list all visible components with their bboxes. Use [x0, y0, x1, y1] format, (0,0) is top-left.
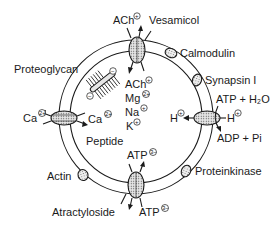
- synapsin-protein: [191, 73, 204, 87]
- proteinkinase-label: Proteinkinase: [195, 165, 262, 177]
- h-in-arrowhead-icon: [183, 115, 189, 121]
- svg-text:−: −: [111, 68, 115, 74]
- adp-pi-label: ADP + Pi: [217, 132, 262, 144]
- vesicle-diagram: ACh + Vesamicol Calmodulin Synapsin I AT…: [0, 0, 278, 227]
- vesamicol-block-line: [145, 31, 151, 40]
- k-label: K: [126, 120, 134, 132]
- ach-transporter: [127, 25, 151, 74]
- h-inside-label: H: [170, 112, 178, 124]
- svg-text:2+: 2+: [39, 110, 46, 116]
- atp-in-arrowhead-icon: [140, 161, 145, 167]
- svg-text:+: +: [142, 105, 146, 111]
- na-label: Na: [125, 106, 140, 118]
- atp-out-arrowhead-icon: [128, 204, 133, 210]
- synapsin-label: Synapsin I: [205, 74, 256, 86]
- calmodulin-protein: [164, 47, 178, 60]
- ca-outside-label: Ca: [23, 112, 38, 124]
- ach-inward-arrowhead-icon: [128, 67, 133, 74]
- peptide-label: Peptide: [86, 135, 123, 147]
- svg-text:3−: 3−: [150, 149, 157, 155]
- svg-text:+: +: [179, 110, 183, 116]
- svg-text:+: +: [135, 13, 139, 19]
- mg-label: Mg: [125, 92, 140, 104]
- proton-pump: [183, 106, 226, 132]
- actin-label: Actin: [47, 170, 71, 182]
- proteinkinase-protein: [179, 164, 192, 179]
- proteoglycan-label: Proteoglycan: [14, 63, 78, 75]
- ach-out-arrow: [127, 28, 131, 38]
- ach-in-arrowhead-icon: [138, 25, 143, 31]
- ca-inside-label: Ca: [88, 113, 103, 125]
- vesamicol-label: Vesamicol: [149, 14, 199, 26]
- calmodulin-label: Calmodulin: [180, 47, 235, 59]
- atp-h2o-label: ATP + H₂O: [216, 93, 270, 105]
- svg-text:2+: 2+: [143, 91, 150, 97]
- ach-inside-label: ACh: [125, 78, 146, 90]
- ach-outside-label: ACh: [113, 14, 134, 26]
- ca-transporter-protein: [51, 111, 77, 125]
- h-outside-label: H: [227, 112, 235, 124]
- svg-text:3−: 3−: [162, 205, 169, 211]
- actin-protein: [76, 168, 89, 182]
- svg-text:+: +: [236, 110, 240, 116]
- atp-translocator: [121, 161, 145, 210]
- ca-transporter: [40, 110, 88, 127]
- atp-inside-label: ATP: [127, 149, 148, 161]
- svg-text:+: +: [135, 119, 139, 125]
- svg-text:−: −: [88, 93, 92, 99]
- atractyloside-label: Atractyloside: [52, 206, 115, 218]
- svg-text:+: +: [147, 77, 151, 83]
- svg-text:2+: 2+: [105, 111, 112, 117]
- atractyloside-block-line: [121, 194, 126, 204]
- atp-outside-label: ATP: [139, 206, 160, 218]
